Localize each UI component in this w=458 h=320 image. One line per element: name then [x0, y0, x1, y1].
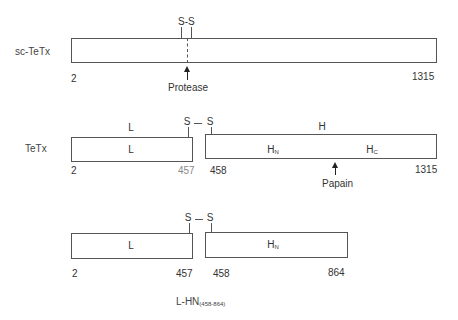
cleavage-agent-label: Papain [322, 179, 353, 189]
start-position: 2 [71, 74, 77, 84]
single-chain-bar [71, 38, 437, 63]
disulfide-tick-right [191, 27, 192, 38]
cleavage-site-dashed-line [187, 38, 188, 63]
cleavage-agent-label: Protease [168, 83, 208, 93]
start-position: 2 [71, 166, 77, 176]
hn-domain-label: HN [267, 145, 279, 155]
light-end-position: 457 [176, 269, 193, 279]
construct-caption: L-HN(458-864) [176, 297, 225, 307]
disulfide-tick-right [211, 223, 212, 232]
start-position: 2 [72, 269, 78, 279]
disulfide-s-left: S [185, 213, 192, 223]
hn-domain-label: HN [267, 240, 279, 250]
heavy-start-position: 458 [213, 269, 230, 279]
construct-label: sc-TeTx [15, 47, 50, 57]
heavy-start-position: 458 [210, 166, 227, 176]
light-chain-label: L [128, 123, 134, 133]
disulfide-tick-left [181, 27, 182, 38]
heavy-chain-label: H [318, 122, 325, 132]
disulfide-s-right: S [207, 213, 214, 223]
disulfide-bond-line [195, 219, 203, 220]
heavy-chain-bar [205, 134, 437, 159]
construct-label: TeTx [25, 144, 47, 154]
light-domain-label: L [128, 241, 134, 251]
disulfide-tick-left [189, 223, 190, 233]
light-domain-label: L [128, 145, 134, 155]
end-position: 1315 [412, 72, 434, 82]
disulfide-label: S-S [178, 17, 195, 27]
hc-domain-label: HC [366, 145, 378, 155]
disulfide-tick-right [211, 127, 212, 134]
disulfide-s-left: S [184, 117, 191, 127]
light-end-position: 457 [178, 166, 195, 176]
end-position: 1315 [415, 165, 437, 175]
disulfide-s-right: S [207, 117, 214, 127]
end-position: 864 [328, 268, 345, 278]
disulfide-bond-line [194, 123, 202, 124]
disulfide-tick-left [188, 127, 189, 137]
